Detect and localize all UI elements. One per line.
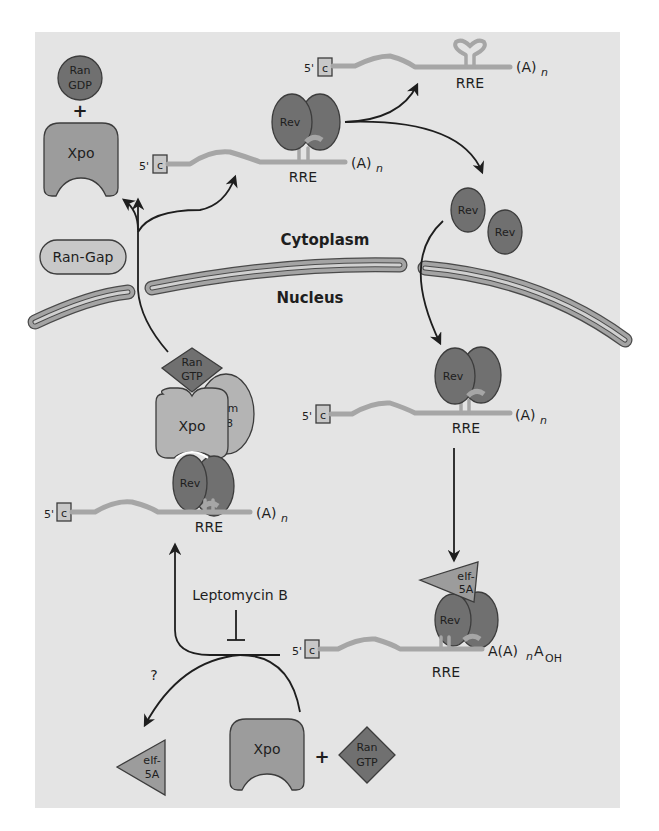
svg-text:c: c [157,159,163,172]
svg-text:5': 5' [292,645,302,658]
svg-text:Rev: Rev [443,370,464,383]
ran-gdp: Ran GDP [58,56,102,100]
svg-text:OH: OH [545,652,562,665]
svg-text:Ran: Ran [69,64,90,77]
svg-text:c: c [61,507,67,520]
svg-text:(A): (A) [351,155,372,171]
svg-text:5': 5' [302,410,312,423]
svg-text:Xpo: Xpo [178,418,205,434]
svg-text:c: c [309,644,315,657]
svg-text:Rev: Rev [180,477,201,490]
svg-text:A(A): A(A) [488,643,518,659]
rev-export-pathway-figure: Cytoplasm Nucleus Ran GDP + Xpo Ran-Gap … [0,0,659,831]
free-rev-1: Rev [451,188,485,232]
plus-sign-nucleus: + [314,746,329,767]
nucleus-label: Nucleus [276,289,343,307]
ran-gap: Ran-Gap [40,240,126,274]
cytoplasm-label: Cytoplasm [281,231,370,249]
svg-text:Rev: Rev [458,204,479,217]
svg-text:A: A [534,643,544,659]
svg-text:GTP: GTP [356,756,378,769]
svg-text:eIf-: eIf- [457,570,474,583]
svg-text:n: n [376,162,383,175]
svg-text:c: c [320,409,326,422]
svg-text:(A): (A) [516,59,537,75]
svg-text:n: n [540,414,547,427]
svg-text:RRE: RRE [432,664,460,680]
svg-text:RRE: RRE [456,75,484,91]
svg-text:n: n [526,650,533,663]
svg-text:5A: 5A [459,583,474,596]
svg-text:GTP: GTP [181,370,203,383]
plus-sign: + [72,100,87,121]
svg-text:(A): (A) [515,407,536,423]
svg-text:RRE: RRE [195,519,223,535]
svg-text:Ran: Ran [181,356,202,369]
svg-text:Rev: Rev [495,226,516,239]
svg-text:n: n [541,66,548,79]
svg-text:5A: 5A [145,768,160,781]
svg-text:n: n [281,512,288,525]
svg-text:c: c [322,62,328,75]
svg-text:5': 5' [44,508,54,521]
svg-text:Rev: Rev [280,116,301,129]
svg-text:(A): (A) [256,505,277,521]
svg-text:Ran: Ran [356,741,377,754]
svg-text:Ran-Gap: Ran-Gap [53,249,114,265]
svg-text:Rev: Rev [440,614,461,627]
svg-text:5': 5' [304,62,314,75]
svg-text:RRE: RRE [289,169,317,185]
svg-text:Xpo: Xpo [67,145,94,161]
unknown-step-label: ? [150,667,157,683]
leptomycin-b-label: Leptomycin B [192,587,288,603]
svg-text:Xpo: Xpo [253,741,280,757]
free-rev-2: Rev [488,210,522,254]
svg-text:RRE: RRE [452,420,480,436]
svg-text:GDP: GDP [68,79,92,92]
svg-text:5': 5' [139,160,149,173]
svg-text:eIf-: eIf- [143,754,160,767]
